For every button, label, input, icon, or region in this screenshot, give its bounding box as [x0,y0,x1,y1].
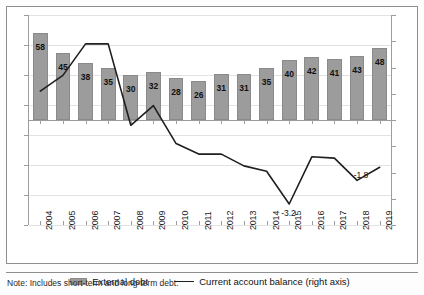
y-axis-tick-right [392,94,396,95]
figure-container: 70503010-10-30-50-7043210-1-2-3-45845383… [0,0,424,295]
y-axis-tick-left [24,15,28,16]
footnote: Note: Includes short-term and long-term … [7,278,417,294]
y-axis-tick-left [24,195,28,196]
y-axis-tick-left [24,225,28,226]
y-axis-tick-left [24,75,28,76]
y-axis-tick-right [392,199,396,200]
y-axis-tick-left [24,45,28,46]
y-axis-tick-left [24,165,28,166]
y-axis-tick-right [392,41,396,42]
plot-area: 70503010-10-30-50-7043210-1-2-3-45845383… [29,15,391,225]
current-account-balance-line [29,15,391,225]
y-axis-tick-right [392,146,396,147]
y-axis-tick-right [392,68,396,69]
y-axis-tick-right [392,120,396,121]
footnote-divider [6,272,418,273]
y-axis-tick-right [392,173,396,174]
y-axis-tick-right [392,15,396,16]
y-axis-tick-left [24,135,28,136]
y-axis-tick-left [24,105,28,106]
